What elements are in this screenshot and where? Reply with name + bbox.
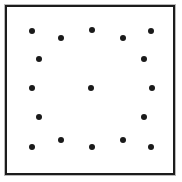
data-point-dot bbox=[89, 27, 95, 33]
data-point-dot bbox=[89, 144, 95, 150]
data-point-dot bbox=[120, 35, 126, 41]
data-point-dot bbox=[58, 35, 64, 41]
data-point-dot bbox=[141, 114, 147, 120]
data-point-dot bbox=[141, 56, 147, 62]
data-point-dot bbox=[120, 137, 126, 143]
data-point-dot bbox=[58, 137, 64, 143]
data-point-dot bbox=[29, 28, 35, 34]
figure-canvas: Dot pattern inside square frame bbox=[0, 0, 182, 182]
data-point-dot bbox=[36, 114, 42, 120]
data-point-dot bbox=[88, 85, 94, 91]
data-point-dot bbox=[29, 85, 35, 91]
data-point-dot bbox=[29, 144, 35, 150]
dot-layer bbox=[0, 0, 182, 182]
data-point-dot bbox=[36, 56, 42, 62]
data-point-dot bbox=[148, 28, 154, 34]
data-point-dot bbox=[148, 144, 154, 150]
data-point-dot bbox=[149, 85, 155, 91]
